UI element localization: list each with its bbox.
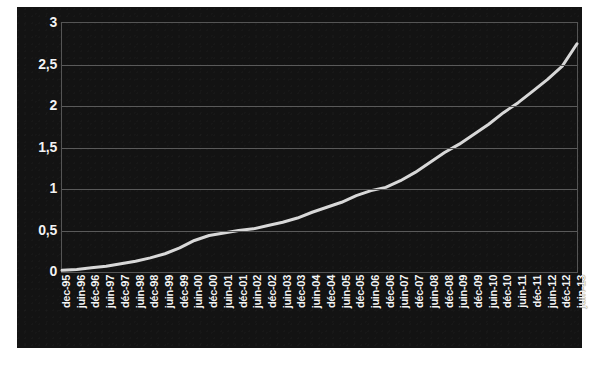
x-axis-tick-label: juin-06: [369, 275, 381, 345]
x-axis-tick-label: déc-97: [119, 275, 131, 345]
gridline: [62, 231, 577, 232]
gridline: [62, 148, 577, 149]
x-axis-tick-label: juin-12: [546, 275, 558, 345]
x-axis-tick-label: déc-09: [472, 275, 484, 345]
x-axis-tick-label: juin-03: [281, 275, 293, 345]
x-axis-tick-label: déc-05: [354, 275, 366, 345]
x-axis-tick-label: juin-08: [428, 275, 440, 345]
x-axis-tick-label: juin-09: [457, 275, 469, 345]
y-axis: 00,511,522,53: [17, 7, 61, 348]
x-axis-tick-label: déc-00: [207, 275, 219, 345]
x-axis: dec-95juin-96déc-96juin-97déc-97juin-98d…: [61, 275, 578, 347]
gridline: [62, 65, 577, 66]
x-axis-tick-label: juin-10: [487, 275, 499, 345]
x-axis-tick-label: juin-98: [134, 275, 146, 345]
x-axis-tick-label: juin-04: [310, 275, 322, 345]
x-axis-tick-label: déc-04: [325, 275, 337, 345]
gridline: [62, 106, 577, 107]
y-axis-tick-label: 0,5: [38, 222, 57, 238]
x-axis-tick-label: déc-11: [531, 275, 543, 345]
y-axis-tick-label: 2,5: [38, 56, 57, 72]
plot-area: [61, 22, 578, 273]
x-axis-tick-label: déc-02: [266, 275, 278, 345]
y-axis-tick-label: 0: [49, 263, 57, 279]
x-axis-tick-label: juin-07: [398, 275, 410, 345]
x-axis-tick-label: juin-05: [340, 275, 352, 345]
x-axis-tick-label: juin-11: [516, 275, 528, 345]
x-axis-tick-label: juin-01: [222, 275, 234, 345]
x-axis-tick-label: déc-08: [443, 275, 455, 345]
x-axis-tick-label: déc-12: [560, 275, 572, 345]
gridline: [62, 189, 577, 190]
y-axis-tick-label: 2: [49, 97, 57, 113]
x-axis-tick-label: juin-97: [104, 275, 116, 345]
x-axis-tick-label: juin-13: [575, 275, 587, 345]
x-axis-tick-label: juin-96: [75, 275, 87, 345]
x-axis-tick-label: déc-10: [501, 275, 513, 345]
x-axis-tick-label: déc-96: [89, 275, 101, 345]
y-axis-tick-label: 1,5: [38, 139, 57, 155]
x-axis-tick-label: déc-07: [413, 275, 425, 345]
x-axis-tick-label: juin-00: [192, 275, 204, 345]
x-axis-tick-label: déc-03: [295, 275, 307, 345]
x-axis-tick-label: déc-99: [178, 275, 190, 345]
x-axis-tick-label: déc-98: [148, 275, 160, 345]
chart-container: 00,511,522,53 dec-95juin-96déc-96juin-97…: [0, 0, 596, 365]
y-axis-tick-label: 1: [49, 180, 57, 196]
x-axis-tick-label: dec-95: [60, 275, 72, 345]
x-axis-tick-label: déc-01: [237, 275, 249, 345]
chart-panel: 00,511,522,53 dec-95juin-96déc-96juin-97…: [17, 7, 582, 348]
x-axis-tick-label: juin-99: [163, 275, 175, 345]
x-axis-tick-label: déc-06: [384, 275, 396, 345]
series-line: [62, 44, 577, 271]
y-axis-tick-label: 3: [49, 14, 57, 30]
x-axis-tick-label: juin-02: [251, 275, 263, 345]
